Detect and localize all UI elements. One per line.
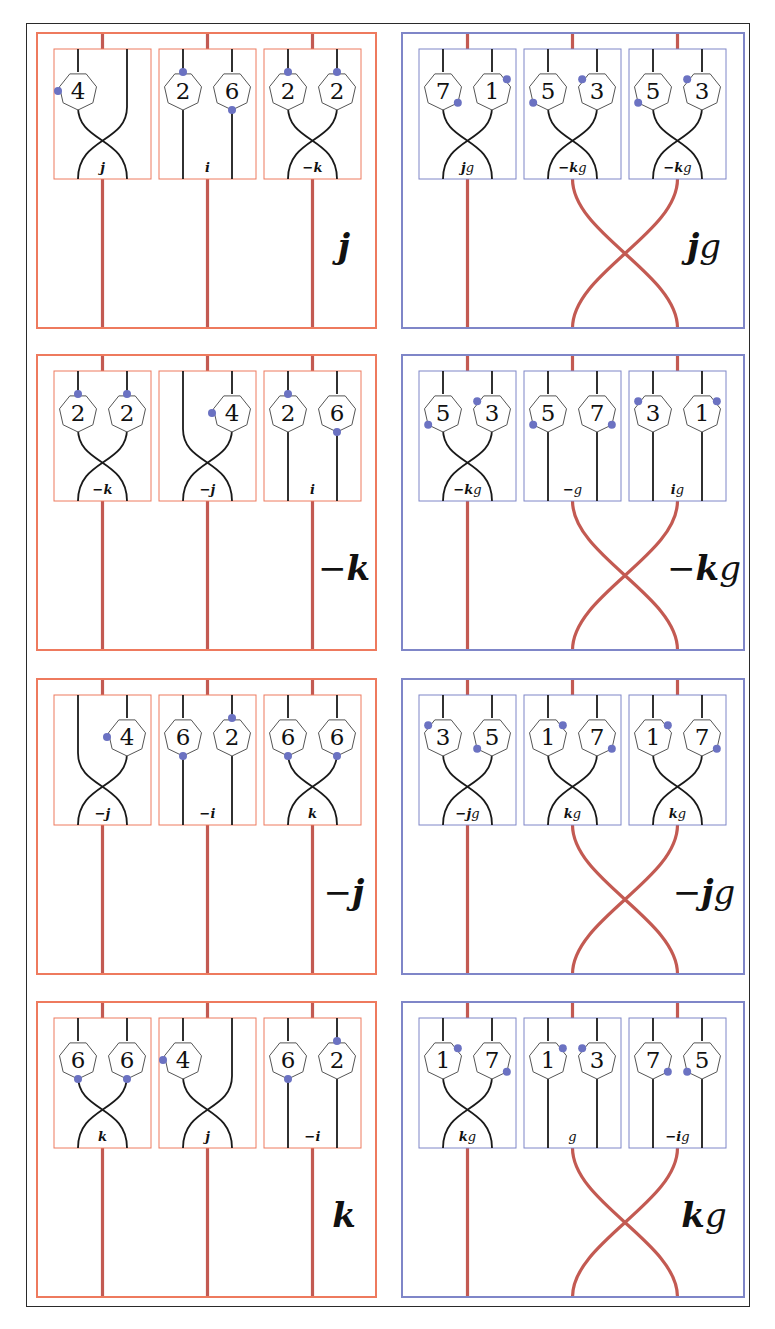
panel-label-sign: −	[667, 548, 696, 588]
heptagon-number: 1	[646, 724, 661, 750]
sub-box-3: 66k	[264, 695, 361, 825]
heptagon-number: 4	[120, 724, 135, 750]
heptagon-number: 7	[436, 78, 451, 104]
panel-4-left: 66k4j62−ik	[37, 1002, 376, 1297]
marker-dot	[503, 1068, 511, 1076]
panel-3-left: 4−j62−i66k−j	[37, 679, 376, 974]
heptagon-number: 7	[590, 400, 605, 426]
heptagon-number: 4	[225, 400, 240, 426]
marker-dot	[74, 390, 82, 398]
marker-dot	[103, 733, 111, 741]
marker-dot	[333, 1037, 341, 1045]
sub-box-2: 13g	[524, 1018, 621, 1148]
sub-box-1: 22−k	[54, 371, 151, 501]
sub-box-1: 66k	[54, 1018, 151, 1148]
sub-box-label-suffix: g	[676, 482, 684, 497]
sub-box-label-main: −k	[453, 482, 473, 497]
marker-dot	[559, 721, 567, 729]
marker-dot	[529, 421, 537, 429]
sub-box-1: 4−j	[54, 695, 151, 825]
marker-dot	[713, 745, 721, 753]
panel-label-suffix: g	[705, 1195, 727, 1235]
sub-box-label: −ig	[665, 1129, 689, 1144]
marker-dot	[123, 1075, 131, 1083]
panel-3-right: 35−jg17kg17kg−jg	[402, 679, 744, 974]
sub-box-label-main: k	[459, 1129, 468, 1144]
heptagon-number: 1	[695, 400, 710, 426]
marker-dot	[74, 1075, 82, 1083]
marker-dot	[529, 99, 537, 107]
sub-box-label-main: −i	[200, 806, 216, 821]
heptagon-number: 4	[176, 1047, 191, 1073]
marker-dot	[333, 428, 341, 436]
sub-box-1: 4j	[54, 49, 151, 179]
marker-dot	[634, 397, 642, 405]
panel-label-main: k	[681, 1195, 705, 1235]
panel-label-sign: −	[673, 872, 702, 912]
sub-box-label: i	[205, 160, 210, 175]
heptagon-number: 5	[695, 1047, 710, 1073]
panel-1-right: 71jg53−kg53−kgjg	[402, 33, 744, 328]
marker-dot	[608, 745, 616, 753]
heptagon-number: 3	[436, 724, 451, 750]
panel-label-main: j	[681, 226, 700, 266]
red-strand-twist	[573, 1148, 678, 1297]
sub-box-2: 57−g	[524, 371, 621, 501]
marker-dot	[664, 721, 672, 729]
sub-box-1: 35−jg	[419, 695, 516, 825]
sub-box-label-main: −k	[663, 160, 683, 175]
panel-label-main: k	[332, 1195, 356, 1235]
heptagon-number: 6	[330, 724, 345, 750]
marker-dot	[559, 1044, 567, 1052]
heptagon-number: 5	[541, 78, 556, 104]
sub-box-3: 62−i	[264, 1018, 361, 1148]
sub-box-1: 71jg	[419, 49, 516, 179]
marker-dot	[424, 421, 432, 429]
sub-box-3: 75−ig	[629, 1018, 726, 1148]
sub-box-label: k	[308, 806, 317, 821]
sub-box-label-suffix: g	[681, 1129, 689, 1144]
diagram-canvas: 4j26i22−kj71jg53−kg53−kgjg22−k4−j26i−k53…	[0, 0, 775, 1329]
marker-dot	[284, 752, 292, 760]
sub-box-label-main: i	[205, 160, 210, 175]
heptagon-number: 1	[541, 1047, 556, 1073]
heptagon-number: 6	[120, 1047, 135, 1073]
sub-box-3: 31ig	[629, 371, 726, 501]
marker-dot	[634, 99, 642, 107]
sub-box-label: kg	[459, 1129, 476, 1144]
marker-dot	[284, 390, 292, 398]
heptagon-number: 2	[120, 400, 135, 426]
sub-box-label-suffix: g	[683, 160, 691, 175]
sub-box-2: 62−i	[159, 695, 256, 825]
marker-dot	[683, 75, 691, 83]
sub-box-label: kg	[669, 806, 686, 821]
heptagon-number: 6	[71, 1047, 86, 1073]
marker-dot	[503, 75, 511, 83]
sub-box-label: jg	[458, 160, 474, 175]
sub-box-label-suffix: g	[468, 1129, 476, 1144]
marker-dot	[54, 87, 62, 95]
sub-box-label-main: −i	[305, 1129, 321, 1144]
marker-dot	[333, 68, 341, 76]
sub-box-label-suffix: g	[578, 160, 586, 175]
sub-box-label: −kg	[453, 482, 481, 497]
marker-dot	[159, 1056, 167, 1064]
heptagon-number: 1	[541, 724, 556, 750]
sub-box-label: −i	[200, 806, 216, 821]
sub-box-label-suffix: g	[473, 482, 481, 497]
heptagon-number: 5	[485, 724, 500, 750]
marker-dot	[473, 745, 481, 753]
marker-dot	[424, 721, 432, 729]
marker-dot	[713, 397, 721, 405]
marker-dot	[454, 1044, 462, 1052]
heptagon-number: 7	[695, 724, 710, 750]
sub-box-label: −k	[93, 482, 113, 497]
marker-dot	[228, 714, 236, 722]
marker-dot	[284, 68, 292, 76]
sub-box-3: 22−k	[264, 49, 361, 179]
panel-2-right: 53−kg57−g31ig−kg	[402, 355, 744, 650]
marker-dot	[284, 1075, 292, 1083]
heptagon-number: 5	[436, 400, 451, 426]
sub-box-label: k	[98, 1129, 107, 1144]
braid-diagram-figure: 4j26i22−kj71jg53−kg53−kgjg22−k4−j26i−k53…	[0, 0, 775, 1329]
